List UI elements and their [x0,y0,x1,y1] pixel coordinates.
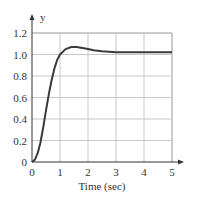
axes [30,14,185,165]
response-curve [32,47,172,162]
y-tick-label: 0.4 [13,113,27,125]
x-tick-label: 5 [169,166,175,178]
x-tick-label: 0 [29,166,35,178]
y-tick-label: 1.0 [13,49,27,61]
y-tick-label: 0.8 [13,70,27,82]
x-tick-label: 1 [57,166,63,178]
y-tick-label: 0 [22,156,28,168]
y-tick-label: 0.6 [13,92,27,104]
x-tick-label: 4 [141,166,147,178]
y-axis-label: y [40,11,46,23]
x-axis-arrow-icon [178,160,184,165]
step-response-chart: 01234500.20.40.60.81.01.2 y Time (sec) [0,0,204,200]
x-tick-label: 2 [85,166,91,178]
y-axis-arrow-icon [30,14,35,20]
y-tick-label: 1.2 [13,27,27,39]
x-tick-label: 3 [113,166,119,178]
x-axis-label: Time (sec) [79,180,126,193]
y-tick-label: 0.2 [13,135,27,147]
